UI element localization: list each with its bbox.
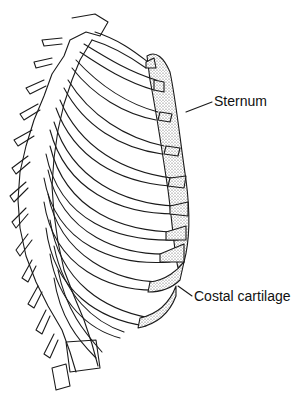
costal-cartilage-leader xyxy=(178,286,192,296)
spinous-processes xyxy=(10,38,62,358)
ribcage-diagram: Sternum Costal cartilage xyxy=(0,0,302,395)
sternum-leader xyxy=(186,102,212,112)
costal-cartilage-label: Costal cartilage xyxy=(194,288,291,304)
sternum-label: Sternum xyxy=(214,93,267,109)
ribcage-drawing xyxy=(0,0,302,395)
